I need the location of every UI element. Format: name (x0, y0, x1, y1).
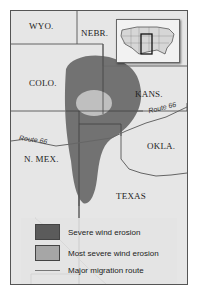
legend-label: Most severe wind erosion (68, 249, 159, 258)
us-locator-inset (116, 19, 180, 63)
legend-item-most-severe: Most severe wind erosion (21, 245, 159, 261)
state-label-oklahoma: OKLA. (147, 141, 175, 151)
state-label-nebraska: NEBR. (81, 28, 108, 38)
state-label-kansas: KANS. (135, 89, 163, 99)
most-severe-swatch (35, 245, 60, 261)
state-label-colorado: COLO. (29, 78, 57, 88)
map-legend: Severe wind erosion Most severe wind ero… (21, 218, 177, 284)
legend-item-route: Major migration route (21, 264, 144, 276)
legend-label: Severe wind erosion (68, 228, 140, 237)
state-label-texas: TEXAS (116, 191, 146, 201)
most-severe-erosion-area (76, 90, 112, 116)
state-label-wyoming: WYO. (29, 21, 54, 31)
route-line-swatch (35, 270, 60, 271)
state-label-new-mexico: N. MEX. (24, 154, 59, 164)
map-frame: WYO. NEBR. COLO. KANS. OKLA. N. MEX. TEX… (10, 10, 188, 285)
legend-item-severe: Severe wind erosion (21, 224, 140, 240)
legend-label: Major migration route (68, 266, 144, 275)
severe-swatch (35, 224, 60, 240)
